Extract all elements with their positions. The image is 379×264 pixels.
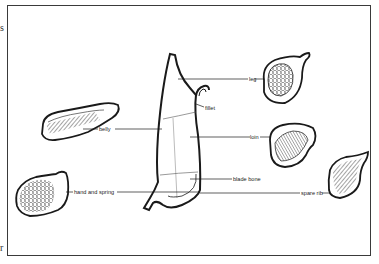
carcass-outline bbox=[144, 54, 209, 210]
label-loin: loin bbox=[250, 134, 259, 140]
label-belly: belly bbox=[99, 126, 111, 132]
leg-cut-illustration bbox=[264, 53, 310, 103]
label-hand-and-spring: hand and spring bbox=[74, 189, 114, 195]
label-blade-bone: blade bone bbox=[233, 176, 261, 182]
pork-cuts-diagram: leg fillet belly loin blade bone hand an… bbox=[0, 0, 379, 264]
loin-cut-illustration bbox=[270, 124, 316, 167]
label-fillet: fillet bbox=[205, 105, 215, 111]
label-leg: leg bbox=[249, 76, 256, 82]
label-spare-rib: spare rib bbox=[301, 190, 323, 196]
fillet-leader-line bbox=[196, 104, 204, 107]
spare-rib-cut-illustration bbox=[329, 152, 368, 198]
hand-and-spring-cut-illustration bbox=[16, 172, 68, 216]
belly-cut-illustration bbox=[42, 103, 119, 140]
